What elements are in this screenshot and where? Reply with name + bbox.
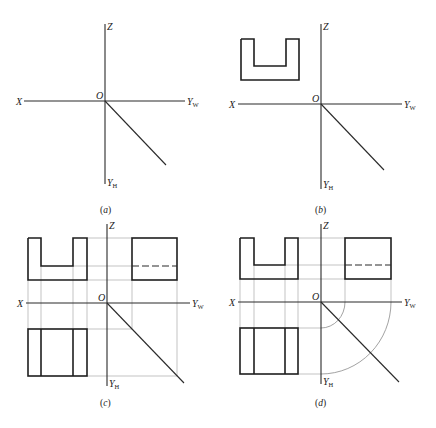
caption-b: (b) [315, 205, 326, 216]
x-label: X [16, 298, 24, 309]
projection-lines [28, 238, 177, 376]
origin-label: O [98, 292, 105, 303]
miter-line [321, 302, 399, 382]
caption-a: (a) [100, 205, 111, 216]
yw-label: YW [404, 99, 417, 111]
x-label: X [228, 99, 236, 110]
front-view-u-shape [28, 238, 87, 280]
front-view-u-shape [240, 238, 298, 279]
yh-label: YH [107, 177, 118, 189]
yw-label: YW [192, 298, 205, 310]
yw-label: YW [404, 297, 417, 309]
caption-d: (d) [315, 398, 326, 409]
projection-lines [240, 238, 391, 374]
front-view-u-shape [241, 39, 299, 80]
miter-line [105, 101, 166, 165]
x-label: X [228, 297, 236, 308]
z-label: Z [323, 220, 329, 231]
yw-label: YW [187, 96, 200, 108]
panel-a: Z X O YW YH (a) [15, 21, 200, 216]
panel-b: Z X O YW YH (b) [228, 21, 417, 216]
origin-label: O [312, 93, 319, 104]
yh-label: YH [323, 179, 334, 191]
panel-c: Z X O YW YH (c) [16, 220, 205, 409]
side-view-rect [132, 238, 177, 280]
side-view-rect [345, 238, 391, 279]
yh-label: YH [323, 376, 334, 388]
x-label: X [15, 96, 23, 107]
yh-label: YH [109, 378, 120, 390]
caption-c: (c) [100, 398, 111, 409]
top-view-rect [240, 328, 298, 374]
origin-label: O [312, 291, 319, 302]
z-label: Z [107, 21, 113, 32]
orthographic-projection-figure: Z X O YW YH (a) Z X O YW YH (b) [0, 0, 436, 428]
top-view-rect [28, 329, 87, 376]
z-label: Z [109, 220, 115, 231]
origin-label: O [96, 90, 103, 101]
miter-line [107, 303, 184, 383]
z-label: Z [323, 21, 329, 32]
miter-line [321, 104, 384, 170]
panel-d: Z X O YW YH (d) [228, 220, 417, 409]
